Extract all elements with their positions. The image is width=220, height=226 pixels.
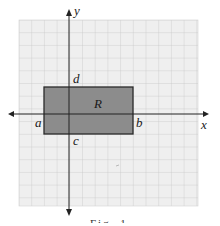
x-axis-left-arrow-icon — [8, 111, 14, 117]
y-axis-down-arrow-icon — [66, 209, 72, 216]
y-axis-up-arrow-icon — [66, 9, 72, 16]
region-r — [44, 87, 133, 134]
bound-label-b: b — [136, 116, 143, 129]
bound-label-a: a — [35, 116, 42, 129]
bound-label-c: c — [73, 134, 79, 147]
region-label: R — [94, 97, 102, 110]
coordinate-plane-figure — [0, 0, 220, 226]
x-axis-label: x — [201, 118, 207, 131]
y-axis-label: y — [74, 4, 80, 17]
bound-label-d: d — [73, 72, 80, 85]
